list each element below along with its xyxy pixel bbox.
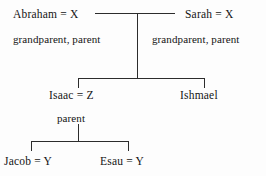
node-abraham: Abraham = X bbox=[13, 8, 79, 20]
descent-line-generation-2-to-3 bbox=[78, 124, 79, 141]
node-jacob: Jacob = Y bbox=[4, 155, 52, 167]
role-label-isaac: parent bbox=[57, 112, 85, 124]
kinship-diagram: Abraham = X Sarah = X grandparent, paren… bbox=[0, 0, 266, 176]
child-link-esau bbox=[128, 141, 129, 151]
marriage-link-abraham-sarah bbox=[95, 13, 175, 14]
sibling-bracket-jacob-esau bbox=[31, 141, 129, 142]
node-esau: Esau = Y bbox=[100, 155, 144, 167]
role-label-abraham: grandparent, parent bbox=[13, 33, 100, 45]
sibling-bracket-isaac-ishmael bbox=[78, 78, 205, 79]
node-sarah: Sarah = X bbox=[185, 8, 234, 20]
child-link-ishmael bbox=[204, 78, 205, 88]
child-link-jacob bbox=[31, 141, 32, 151]
child-link-isaac bbox=[78, 78, 79, 88]
node-isaac: Isaac = Z bbox=[49, 89, 94, 101]
node-ishmael: Ishmael bbox=[180, 89, 218, 101]
descent-line-generation-1-to-2 bbox=[137, 13, 138, 79]
role-label-sarah: grandparent, parent bbox=[152, 33, 239, 45]
